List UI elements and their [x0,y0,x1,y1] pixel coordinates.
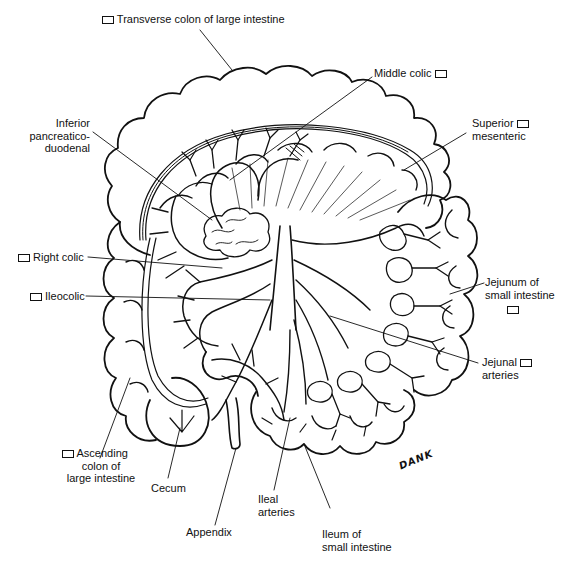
label-inferior-pancreaticoduodenal: Inferior pancreatico- duodenal [20,117,90,155]
answer-box[interactable] [18,254,30,262]
label-jejunum: Jejunum of small intestine [485,276,555,316]
answer-box[interactable] [102,16,114,24]
label-middle-colic: Middle colic [374,67,447,80]
answer-box[interactable] [435,70,447,78]
label-cecum: Cecum [151,482,186,495]
cecum-outline [146,378,208,446]
label-superior-mesenteric: Superior mesenteric [472,117,529,142]
answer-box[interactable] [520,359,532,367]
superior-mesenteric-trunk [270,226,296,330]
leader-inferior-pancreaticoduodenal [93,132,212,220]
leader-appendix [215,448,236,525]
appendix-outline [226,398,240,449]
label-transverse-colon: Transverse colon of large intestine [102,13,285,26]
label-ileal-arteries: Ileal arteries [258,493,295,518]
answer-box[interactable] [62,450,74,458]
answer-box[interactable] [30,293,42,301]
label-appendix: Appendix [186,526,232,539]
label-right-colic: Right colic [18,251,84,264]
label-ascending-colon: Ascending colon of large intestine [52,447,138,485]
label-ileocolic: Ileocolic [30,290,85,303]
leader-ileal-arteries [274,418,290,490]
label-ileum: Ileum of small intestine [322,528,392,553]
leader-cecum [168,428,180,478]
answer-box[interactable] [507,306,519,314]
leader-transverse-colon [200,30,232,70]
label-jejunal-arteries: Jejunal arteries [482,356,532,381]
leader-jejunal-arteries [330,316,478,363]
answer-box[interactable] [517,120,529,128]
diagram-canvas: Transverse colon of large intestine Midd… [0,0,568,563]
ileum-outline [251,390,414,454]
